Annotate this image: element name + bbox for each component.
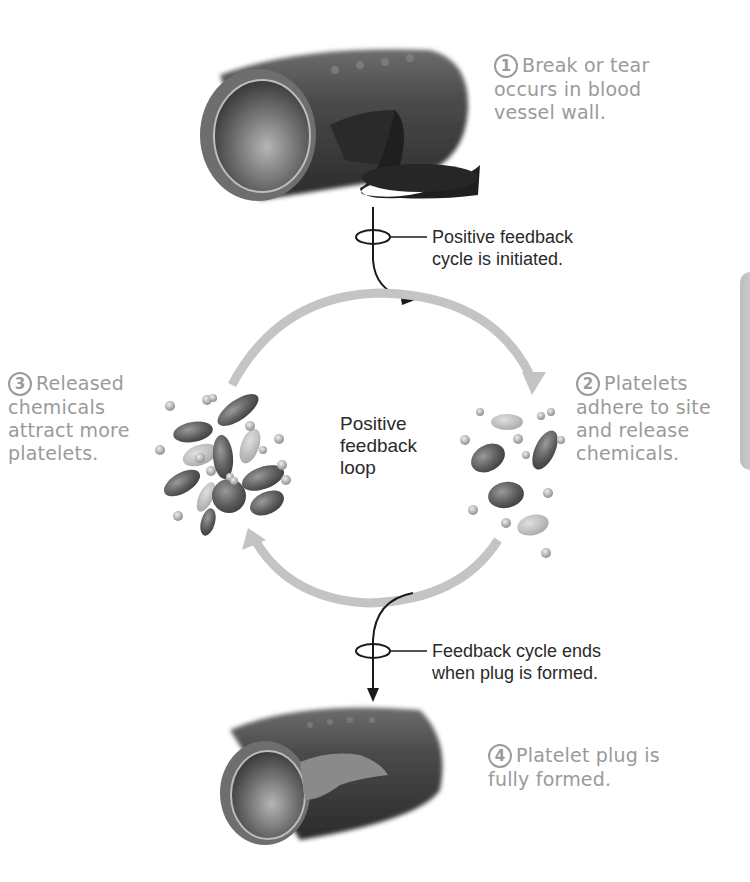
step-1-line-2: occurs in blood: [494, 78, 641, 100]
initiation-callout-line-2: cycle is initiated.: [432, 249, 563, 269]
step-2-line-1: Platelets: [604, 372, 688, 394]
platelet-cluster-right: [460, 408, 565, 558]
step-2-line-3: and release: [576, 419, 689, 441]
step-2-line-4: chemicals.: [576, 442, 679, 464]
ending-connector: [356, 593, 427, 702]
platelet-cluster-left: [155, 388, 291, 537]
side-tab-marker: [740, 272, 750, 470]
step-2-number-badge: 2: [576, 372, 600, 396]
initiation-callout: Positive feedback cycle is initiated.: [432, 226, 573, 270]
loop-label-line-2: feedback: [340, 435, 417, 456]
initiation-callout-line-1: Positive feedback: [432, 227, 573, 247]
step-1-number-badge: 1: [494, 54, 518, 78]
step-1-line-1: Break or tear: [522, 54, 649, 76]
ending-callout-line-2: when plug is formed.: [432, 663, 598, 683]
step-3-line-1: Released: [36, 372, 124, 394]
step-4-line-1: Platelet plug is: [516, 744, 660, 766]
step-4-number-badge: 4: [488, 744, 512, 768]
step-4-line-2: fully formed.: [488, 768, 611, 790]
step-2-line-2: adhere to site: [576, 396, 711, 418]
step-4-label: 4Platelet plug is fully formed.: [488, 744, 708, 791]
loop-label-line-3: loop: [340, 457, 376, 478]
step-3-line-2: chemicals: [8, 396, 105, 418]
step-3-number-badge: 3: [8, 372, 32, 396]
ending-callout: Feedback cycle ends when plug is formed.: [432, 640, 601, 684]
step-3-line-4: platelets.: [8, 442, 98, 464]
ending-callout-line-1: Feedback cycle ends: [432, 641, 601, 661]
torn-blood-vessel-illustration: [200, 49, 480, 201]
step-2-label: 2Platelets adhere to site and release ch…: [576, 372, 736, 465]
step-1-label: 1Break or tear occurs in blood vessel wa…: [494, 54, 724, 124]
positive-feedback-loop-label: Positive feedback loop: [340, 413, 417, 479]
step-3-line-3: attract more: [8, 419, 130, 441]
loop-label-line-1: Positive: [340, 413, 407, 434]
plugged-blood-vessel-illustration: [220, 708, 443, 846]
step-3-label: 3Released chemicals attract more platele…: [8, 372, 168, 465]
step-1-line-3: vessel wall.: [494, 101, 606, 123]
